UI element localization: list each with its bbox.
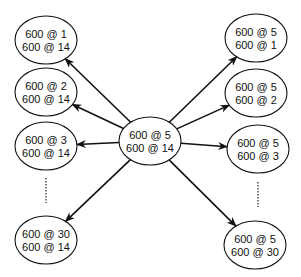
node-label-line2: 600 @ 1 bbox=[235, 39, 277, 51]
node-center: 600 @ 5600 @ 14 bbox=[119, 117, 181, 165]
node-label-line1: 600 @ 5 bbox=[129, 129, 171, 141]
nodes: 600 @ 5600 @ 14600 @ 1600 @ 14600 @ 2600… bbox=[15, 14, 289, 269]
node-ellipse bbox=[15, 216, 77, 264]
node-label-line1: 600 @ 5 bbox=[235, 81, 277, 93]
edge-arrow-left-30 bbox=[66, 160, 131, 222]
node-ellipse bbox=[15, 122, 77, 170]
node-left-2: 600 @ 2600 @ 14 bbox=[15, 68, 77, 116]
node-right-3: 600 @ 5600 @ 3 bbox=[227, 125, 289, 173]
node-left-3: 600 @ 3600 @ 14 bbox=[15, 122, 77, 170]
node-label-line1: 600 @ 2 bbox=[25, 80, 67, 92]
node-ellipse bbox=[15, 16, 77, 64]
node-label-line2: 600 @ 14 bbox=[22, 93, 70, 105]
edge-arrow-left-3 bbox=[77, 142, 119, 144]
node-label-line2: 600 @ 2 bbox=[235, 94, 277, 106]
node-left-30: 600 @ 30600 @ 14 bbox=[15, 216, 77, 264]
node-label-line1: 600 @ 30 bbox=[22, 228, 70, 240]
node-ellipse bbox=[119, 117, 181, 165]
node-ellipse bbox=[15, 68, 77, 116]
edge-arrow-right-2 bbox=[177, 105, 229, 129]
node-label-line2: 600 @ 14 bbox=[22, 241, 70, 253]
node-ellipse bbox=[224, 221, 286, 269]
node-label-line1: 600 @ 3 bbox=[25, 134, 67, 146]
node-diagram: 600 @ 5600 @ 14600 @ 1600 @ 14600 @ 2600… bbox=[0, 0, 301, 277]
node-left-1: 600 @ 1600 @ 14 bbox=[15, 16, 77, 64]
node-label-line1: 600 @ 5 bbox=[237, 137, 279, 149]
node-ellipse bbox=[225, 14, 287, 62]
node-label-line1: 600 @ 5 bbox=[235, 26, 277, 38]
node-right-30: 600 @ 5600 @ 30 bbox=[224, 221, 286, 269]
node-label-line2: 600 @ 14 bbox=[22, 147, 70, 159]
node-ellipse bbox=[227, 125, 289, 173]
node-right-2: 600 @ 5600 @ 2 bbox=[225, 69, 287, 117]
edge-arrow-right-30 bbox=[169, 160, 236, 226]
node-label-line1: 600 @ 5 bbox=[234, 233, 276, 245]
node-label-line2: 600 @ 14 bbox=[22, 41, 70, 53]
node-right-1: 600 @ 5600 @ 1 bbox=[225, 14, 287, 62]
ellipsis-markers bbox=[46, 178, 258, 207]
edge-arrow-right-3 bbox=[181, 143, 227, 146]
node-label-line2: 600 @ 30 bbox=[231, 246, 279, 258]
node-label-line2: 600 @ 3 bbox=[237, 150, 279, 162]
node-label-line1: 600 @ 1 bbox=[25, 28, 67, 40]
node-ellipse bbox=[225, 69, 287, 117]
node-label-line2: 600 @ 14 bbox=[126, 142, 174, 154]
